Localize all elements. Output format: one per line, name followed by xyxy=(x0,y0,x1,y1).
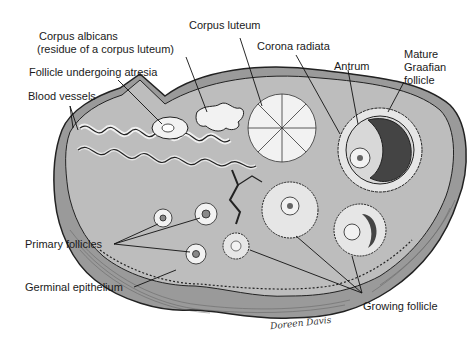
growing-follicle-3 xyxy=(223,233,249,259)
label-corpus-albicans: Corpus albicans xyxy=(39,30,118,43)
label-follicle: follicle xyxy=(404,74,435,87)
label-corpus-luteum: Corpus luteum xyxy=(189,19,261,32)
label-mature: Mature xyxy=(404,48,438,61)
label-corpus-albicans-note: (residue of a corpus luteum) xyxy=(37,43,174,56)
growing-follicle-2 xyxy=(334,204,386,256)
label-corona-radiata: Corona radiata xyxy=(257,40,330,53)
growing-follicle-1 xyxy=(262,182,318,238)
corpus-luteum xyxy=(248,94,316,162)
label-primary-follicles: Primary follicles xyxy=(25,238,102,251)
label-antrum: Antrum xyxy=(334,60,369,73)
graafian-follicle xyxy=(338,108,422,192)
label-growing-follicle: Growing follicle xyxy=(363,300,438,313)
label-germinal-epithelium: Germinal epithelium xyxy=(25,281,123,294)
label-blood-vessels: Blood vessels xyxy=(28,90,96,103)
label-graafian: Graafian xyxy=(404,61,446,74)
label-follicle-atresia: Follicle undergoing atresia xyxy=(29,66,157,79)
